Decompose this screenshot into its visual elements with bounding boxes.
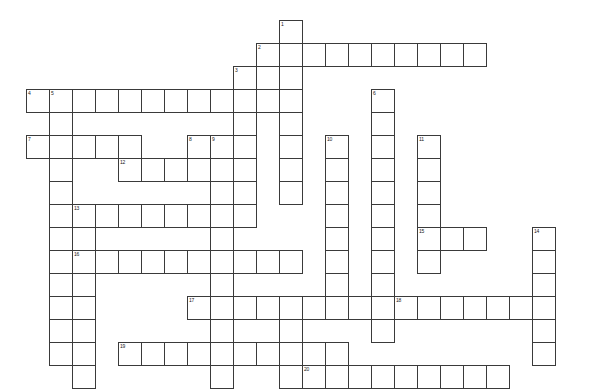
crossword-cell[interactable] <box>72 296 96 320</box>
crossword-cell[interactable] <box>210 227 234 251</box>
crossword-cell[interactable] <box>49 250 73 274</box>
crossword-cell[interactable] <box>118 135 142 159</box>
crossword-cell[interactable] <box>256 342 280 366</box>
crossword-cell[interactable] <box>233 158 257 182</box>
crossword-cell[interactable] <box>187 204 211 228</box>
crossword-cell[interactable] <box>164 250 188 274</box>
crossword-cell[interactable] <box>394 43 418 67</box>
crossword-cell[interactable] <box>72 135 96 159</box>
crossword-cell[interactable] <box>279 319 303 343</box>
crossword-cell[interactable] <box>118 250 142 274</box>
crossword-cell[interactable] <box>210 365 234 389</box>
crossword-cell[interactable] <box>371 296 395 320</box>
crossword-cell[interactable] <box>463 43 487 67</box>
crossword-cell[interactable]: 9 <box>210 135 234 159</box>
crossword-cell[interactable] <box>325 204 349 228</box>
crossword-cell[interactable] <box>72 273 96 297</box>
crossword-cell[interactable]: 1 <box>279 20 303 44</box>
crossword-cell[interactable]: 14 <box>532 227 556 251</box>
crossword-cell[interactable] <box>325 43 349 67</box>
crossword-cell[interactable] <box>72 227 96 251</box>
crossword-cell[interactable] <box>72 89 96 113</box>
crossword-cell[interactable] <box>417 43 441 67</box>
crossword-cell[interactable] <box>210 181 234 205</box>
crossword-cell[interactable] <box>417 204 441 228</box>
crossword-cell[interactable] <box>371 43 395 67</box>
crossword-cell[interactable] <box>417 296 441 320</box>
crossword-cell[interactable] <box>49 135 73 159</box>
crossword-cell[interactable] <box>279 342 303 366</box>
crossword-cell[interactable] <box>210 204 234 228</box>
crossword-cell[interactable] <box>532 342 556 366</box>
crossword-cell[interactable] <box>210 158 234 182</box>
crossword-cell[interactable] <box>187 342 211 366</box>
crossword-cell[interactable] <box>95 204 119 228</box>
crossword-cell[interactable] <box>141 158 165 182</box>
crossword-cell[interactable]: 5 <box>49 89 73 113</box>
crossword-cell[interactable]: 20 <box>302 365 326 389</box>
crossword-cell[interactable] <box>210 250 234 274</box>
crossword-cell[interactable]: 12 <box>118 158 142 182</box>
crossword-cell[interactable] <box>440 227 464 251</box>
crossword-cell[interactable] <box>325 227 349 251</box>
crossword-cell[interactable] <box>233 250 257 274</box>
crossword-cell[interactable] <box>279 250 303 274</box>
crossword-cell[interactable]: 10 <box>325 135 349 159</box>
crossword-cell[interactable] <box>256 89 280 113</box>
crossword-cell[interactable] <box>371 181 395 205</box>
crossword-cell[interactable] <box>49 204 73 228</box>
crossword-cell[interactable] <box>233 112 257 136</box>
crossword-cell[interactable] <box>187 250 211 274</box>
crossword-cell[interactable] <box>371 273 395 297</box>
crossword-cell[interactable] <box>371 112 395 136</box>
crossword-cell[interactable] <box>463 365 487 389</box>
crossword-cell[interactable] <box>279 158 303 182</box>
crossword-cell[interactable] <box>532 319 556 343</box>
crossword-cell[interactable] <box>118 204 142 228</box>
crossword-cell[interactable] <box>49 273 73 297</box>
crossword-cell[interactable] <box>233 135 257 159</box>
crossword-cell[interactable] <box>302 296 326 320</box>
crossword-cell[interactable] <box>49 227 73 251</box>
crossword-cell[interactable] <box>371 204 395 228</box>
crossword-cell[interactable] <box>394 365 418 389</box>
crossword-cell[interactable] <box>417 181 441 205</box>
crossword-cell[interactable] <box>348 43 372 67</box>
crossword-cell[interactable] <box>325 342 349 366</box>
crossword-cell[interactable] <box>49 112 73 136</box>
crossword-cell[interactable]: 16 <box>72 250 96 274</box>
crossword-cell[interactable] <box>279 296 303 320</box>
crossword-cell[interactable]: 13 <box>72 204 96 228</box>
crossword-cell[interactable] <box>95 250 119 274</box>
crossword-cell[interactable] <box>49 181 73 205</box>
crossword-cell[interactable] <box>325 273 349 297</box>
crossword-cell[interactable] <box>72 365 96 389</box>
crossword-cell[interactable] <box>49 158 73 182</box>
crossword-cell[interactable] <box>325 296 349 320</box>
crossword-cell[interactable] <box>325 158 349 182</box>
crossword-cell[interactable] <box>256 250 280 274</box>
crossword-cell[interactable] <box>486 365 510 389</box>
crossword-cell[interactable]: 18 <box>394 296 418 320</box>
crossword-cell[interactable] <box>440 365 464 389</box>
crossword-cell[interactable] <box>371 135 395 159</box>
crossword-cell[interactable] <box>371 365 395 389</box>
crossword-cell[interactable] <box>49 342 73 366</box>
crossword-cell[interactable] <box>279 89 303 113</box>
crossword-cell[interactable] <box>279 135 303 159</box>
crossword-cell[interactable] <box>532 250 556 274</box>
crossword-cell[interactable] <box>417 250 441 274</box>
crossword-cell[interactable] <box>302 43 326 67</box>
crossword-cell[interactable]: 15 <box>417 227 441 251</box>
crossword-cell[interactable] <box>279 112 303 136</box>
crossword-cell[interactable] <box>532 273 556 297</box>
crossword-cell[interactable] <box>417 158 441 182</box>
crossword-cell[interactable] <box>532 296 556 320</box>
crossword-cell[interactable]: 3 <box>233 66 257 90</box>
crossword-cell[interactable] <box>463 227 487 251</box>
crossword-cell[interactable]: 7 <box>26 135 50 159</box>
crossword-cell[interactable] <box>72 342 96 366</box>
crossword-cell[interactable] <box>118 89 142 113</box>
crossword-cell[interactable] <box>256 296 280 320</box>
crossword-cell[interactable] <box>440 43 464 67</box>
